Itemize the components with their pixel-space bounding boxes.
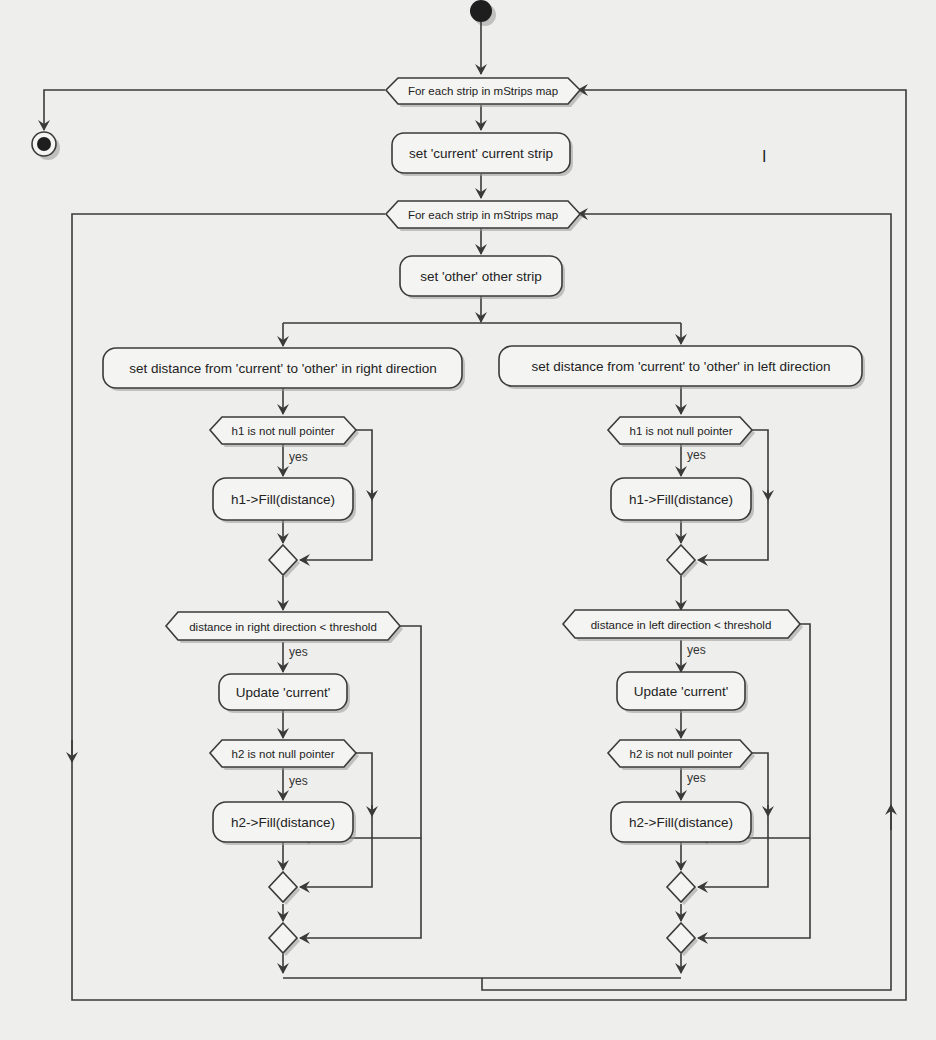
left-h1-check-node: h1 is not null pointer [608, 417, 755, 447]
left-h1-merge-diamond [667, 545, 698, 578]
right-update-current-label: Update 'current' [236, 685, 330, 700]
right-update-current-node: Update 'current' [219, 674, 350, 713]
activity-diagram: I [0, 0, 936, 1040]
inner-loop-label: For each strip in mStrips map [408, 209, 558, 221]
left-h1-fill-node: h1->Fill(distance) [611, 478, 754, 523]
left-h2-fill-node: h2->Fill(distance) [611, 802, 754, 845]
left-h1-fill-label: h1->Fill(distance) [629, 492, 733, 507]
right-set-distance-node: set distance from 'current' to 'other' i… [103, 348, 465, 391]
right-threshold-check-label: distance in right direction < threshold [189, 621, 377, 633]
left-h2-yes-label: yes [687, 771, 706, 785]
set-current-label: set 'current' current strip [409, 146, 553, 161]
right-threshold-merge-diamond [269, 923, 300, 956]
end-node [32, 132, 60, 160]
right-threshold-yes-label: yes [289, 645, 308, 659]
inner-loop-node: For each strip in mStrips map [386, 201, 583, 231]
right-h1-yes-label: yes [289, 450, 308, 464]
left-h1-check-label: h1 is not null pointer [630, 425, 733, 437]
left-update-current-label: Update 'current' [634, 684, 728, 699]
left-update-current-node: Update 'current' [617, 672, 748, 713]
left-h1-yes-label: yes [687, 448, 706, 462]
set-other-label: set 'other' other strip [420, 269, 541, 284]
right-h2-check-node: h2 is not null pointer [210, 740, 359, 770]
stray-mark: I [762, 148, 766, 165]
right-h1-fill-label: h1->Fill(distance) [231, 492, 335, 507]
right-h1-check-label: h1 is not null pointer [232, 425, 335, 437]
right-h1-check-node: h1 is not null pointer [210, 417, 359, 447]
left-threshold-check-label: distance in left direction < threshold [591, 619, 772, 631]
right-set-distance-label: set distance from 'current' to 'other' i… [129, 361, 436, 376]
left-h2-fill-label: h2->Fill(distance) [629, 815, 733, 830]
left-h2-merge-diamond [667, 872, 698, 905]
left-threshold-yes-label: yes [687, 643, 706, 657]
set-current-node: set 'current' current strip [392, 133, 573, 176]
right-threshold-check-node: distance in right direction < threshold [166, 612, 403, 643]
left-set-distance-label: set distance from 'current' to 'other' i… [531, 359, 830, 374]
left-set-distance-node: set distance from 'current' to 'other' i… [499, 346, 865, 389]
left-h2-check-label: h2 is not null pointer [630, 748, 733, 760]
right-h2-fill-label: h2->Fill(distance) [231, 815, 335, 830]
outer-loop-label: For each strip in mStrips map [408, 85, 558, 97]
right-h1-fill-node: h1->Fill(distance) [213, 478, 356, 523]
left-h2-check-node: h2 is not null pointer [608, 740, 755, 770]
right-h2-check-label: h2 is not null pointer [232, 748, 335, 760]
set-other-node: set 'other' other strip [400, 256, 565, 299]
left-threshold-merge-diamond [667, 923, 698, 956]
left-threshold-check-node: distance in left direction < threshold [563, 610, 803, 641]
right-h1-merge-diamond [269, 545, 300, 578]
outer-loop-node: For each strip in mStrips map [386, 78, 583, 107]
right-branch: set distance from 'current' to 'other' i… [103, 348, 465, 956]
right-h2-yes-label: yes [289, 774, 308, 788]
start-node [470, 0, 496, 26]
right-h2-merge-diamond [269, 872, 300, 905]
right-h2-fill-node: h2->Fill(distance) [213, 802, 356, 845]
